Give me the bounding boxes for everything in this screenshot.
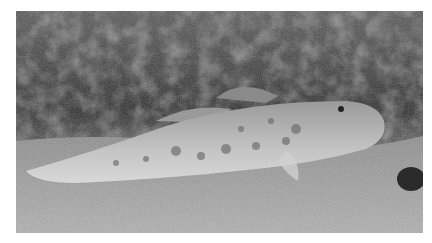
photo-canvas [16, 11, 423, 233]
fish-photo [16, 11, 423, 233]
